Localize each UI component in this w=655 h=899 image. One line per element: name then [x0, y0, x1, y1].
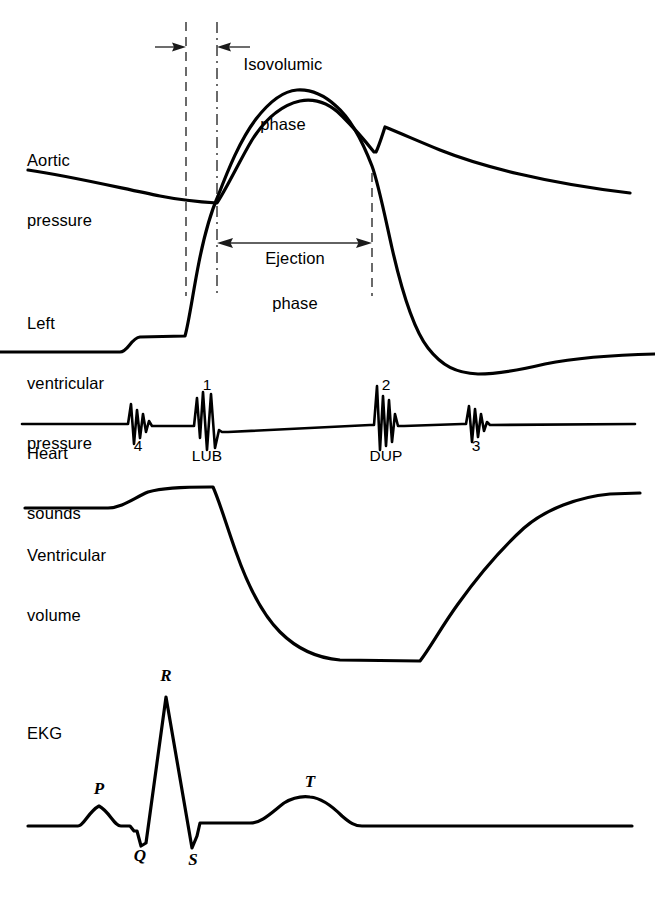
isovolumic-right-arrowhead: [217, 43, 231, 52]
aortic-pressure-trace: [28, 100, 630, 203]
ejection-phase-label-second: phase: [272, 253, 317, 353]
ekg-wave-label-s: S: [188, 850, 198, 870]
aortic-pressure-label-line1: Aortic: [27, 150, 92, 170]
ventricular-volume-trace: [25, 487, 640, 661]
ejection-phase-label-line2: phase: [272, 293, 317, 313]
ekg-wave-label-r: R: [160, 666, 171, 686]
heart-sound-marker-4: 4: [134, 436, 143, 456]
aortic-pressure-label: Aortic pressure: [27, 110, 92, 270]
heart-sound-marker-3: 3: [472, 436, 481, 456]
ekg-label-text: EKG: [27, 723, 62, 743]
lv-pressure-label-line1: Left: [27, 313, 104, 333]
ekg-wave-label-t: T: [305, 772, 315, 792]
heart-sound-marker-2: 2: [382, 375, 391, 395]
isovolumic-phase-label: Isovolumic phase: [244, 14, 323, 174]
heart-sound-word-lub: LUB: [192, 446, 222, 466]
cardiac-cycle-figure: Isovolumic phase Ejection phase Aortic p…: [0, 0, 655, 899]
ekg-label: EKG: [27, 683, 62, 783]
heart-sounds-trace: [22, 386, 635, 450]
heart-sounds-label-line1: Heart: [27, 443, 81, 463]
ventricular-volume-label-line1: Ventricular: [27, 545, 106, 565]
ventricular-volume-label: Ventricular volume: [27, 505, 106, 665]
ekg-trace: [28, 697, 632, 848]
aortic-pressure-label-line2: pressure: [27, 210, 92, 230]
isovolumic-phase-label-line2: phase: [244, 114, 323, 134]
lv-pressure-label-line2: ventricular: [27, 373, 104, 393]
isovolumic-left-arrowhead: [172, 43, 186, 52]
heart-sound-marker-1: 1: [203, 375, 212, 395]
isovolumic-phase-label-line1: Isovolumic: [244, 54, 323, 74]
isovolumic-phase-arrows: [155, 43, 250, 52]
heart-sound-word-dup: DUP: [369, 446, 402, 466]
ekg-wave-label-p: P: [94, 779, 104, 799]
ventricular-volume-label-line2: volume: [27, 605, 106, 625]
ekg-wave-label-q: Q: [134, 846, 146, 866]
